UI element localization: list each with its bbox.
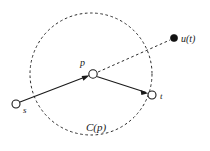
edge-p-to-t-arrowhead-icon bbox=[141, 90, 149, 95]
diagram-svg: s p t u(t) C(p) bbox=[0, 0, 210, 151]
figure-canvas: s p t u(t) C(p) bbox=[0, 0, 210, 151]
node-p-marker bbox=[89, 70, 97, 78]
node-u-marker bbox=[170, 34, 177, 41]
node-t-label: t bbox=[160, 91, 163, 101]
region-label-cp: C(p) bbox=[86, 121, 107, 134]
edge-p-to-u-dashed bbox=[98, 40, 170, 72]
edge-p-to-t-line bbox=[98, 77, 146, 92]
node-p-label: p bbox=[79, 57, 85, 68]
edge-s-to-p-arrowhead-icon bbox=[82, 75, 90, 81]
node-s-marker bbox=[12, 100, 20, 108]
node-s-label: s bbox=[23, 105, 27, 115]
edge-s-to-p-line bbox=[20, 77, 87, 103]
node-u-label: u(t) bbox=[181, 33, 196, 45]
node-t-marker bbox=[148, 91, 156, 99]
